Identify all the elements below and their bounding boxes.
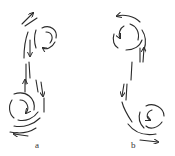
upper-vortex-b — [113, 15, 145, 50]
panel-label-a: a — [35, 141, 39, 150]
upper-vortex-a — [35, 27, 57, 49]
panel-b — [113, 15, 164, 142]
panel-a — [10, 13, 57, 136]
lower-vortex-b — [128, 105, 164, 142]
vortex-diagram — [0, 0, 175, 156]
panel-label-b: b — [131, 141, 136, 150]
channel-streamlines-a — [24, 32, 44, 112]
lower-vortex-a — [10, 93, 40, 136]
channel-streamlines-b — [122, 48, 144, 122]
